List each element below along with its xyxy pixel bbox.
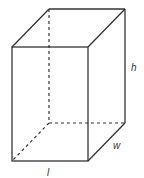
edge-top-right-depth	[88, 9, 125, 47]
edge-top-left-depth	[12, 9, 49, 47]
height-label: h	[131, 62, 137, 73]
rectangular-prism-diagram: h w l	[0, 0, 144, 178]
hidden-edge-depth-bottom-left	[12, 123, 49, 161]
length-label: l	[47, 167, 50, 178]
visible-edges	[12, 9, 125, 161]
width-label: w	[113, 140, 121, 151]
hidden-edges	[12, 9, 125, 161]
front-face	[12, 47, 88, 161]
